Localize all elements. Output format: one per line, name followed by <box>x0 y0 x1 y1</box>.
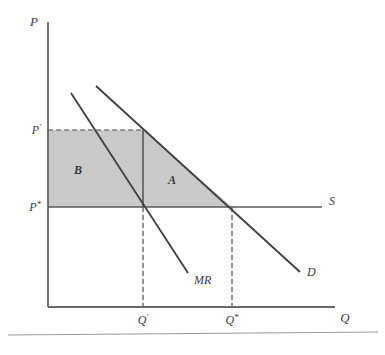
price-tick-label-1: P* <box>28 199 41 214</box>
quantity-tick-base-0: Q <box>138 313 147 327</box>
economics-diagram-figure: P Q P′ P* Q′ Q* D MR S B A <box>0 0 385 355</box>
demand-curve-label: D <box>306 265 316 279</box>
supply-curve-label: S <box>329 194 335 208</box>
quantity-axis-label: Q <box>340 310 350 325</box>
price-tick-label-0: P′ <box>31 122 42 137</box>
quantity-tick-prime-0: ′ <box>146 312 149 322</box>
shaded-region-b <box>48 130 143 207</box>
quantity-tick-label-1: Q* <box>225 312 239 327</box>
quantity-tick-prime-1: * <box>234 312 239 322</box>
region-a-label: A <box>167 173 176 187</box>
quantity-tick-base-1: Q <box>225 313 234 327</box>
region-b-label: B <box>73 163 82 177</box>
price-tick-prime-1: * <box>37 199 42 209</box>
page-bottom-rule <box>8 332 378 335</box>
diagram-canvas: P Q P′ P* Q′ Q* D MR S B A <box>0 0 385 355</box>
quantity-tick-label-0: Q′ <box>138 312 150 327</box>
price-tick-prime-0: ′ <box>39 122 42 132</box>
price-axis-label: P <box>29 14 38 29</box>
marginal-revenue-curve-label: MR <box>193 273 212 287</box>
